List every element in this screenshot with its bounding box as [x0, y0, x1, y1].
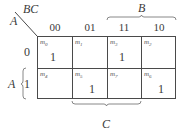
minterm-label: m2 [144, 38, 152, 47]
col-header-00: 00 [38, 21, 72, 33]
row-header-0: 0 [24, 45, 30, 60]
kmap-cell-m7: m7 [108, 69, 143, 101]
minterm-label: m6 [144, 70, 152, 79]
brace-a-label: A [8, 77, 15, 92]
kmap-cell-m6: m6 1 [142, 69, 177, 101]
row-var-label: A [10, 14, 17, 29]
minterm-label: m0 [40, 38, 48, 47]
brace-b-label: B [138, 1, 145, 16]
kmap-cell-m2: m2 [142, 37, 177, 69]
kmap-cell-m3: m3 1 [108, 37, 143, 69]
col-header-10: 10 [142, 21, 176, 33]
col-header-11: 11 [107, 21, 141, 33]
minterm-label: m3 [110, 38, 118, 47]
brace-c [72, 101, 141, 106]
kmap-cell-m0: m0 1 [38, 37, 73, 69]
row-header-1: 1 [24, 77, 30, 92]
cell-value: 1 [119, 50, 125, 65]
kmap-cell-m1: m1 [73, 37, 108, 69]
col-header-01: 01 [73, 21, 107, 33]
minterm-label: m5 [75, 70, 83, 79]
col-var-label: BC [23, 2, 38, 17]
cell-value: 1 [50, 50, 56, 65]
brace-c-label: C [102, 117, 110, 132]
minterm-label: m1 [75, 38, 83, 47]
karnaugh-map-grid: m0 1 m1 m3 1 m2 m4 m5 1 m7 m6 1 [37, 36, 176, 99]
cell-value: 1 [89, 82, 95, 97]
minterm-label: m4 [40, 70, 48, 79]
kmap-cell-m5: m5 1 [73, 69, 108, 101]
kmap-cell-m4: m4 [38, 69, 73, 101]
cell-value: 1 [158, 82, 164, 97]
minterm-label: m7 [110, 70, 118, 79]
